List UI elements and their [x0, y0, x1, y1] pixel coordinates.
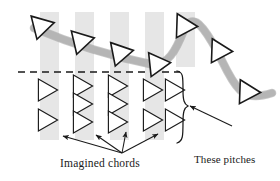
imagined-chords-label: Imagined chords: [60, 157, 140, 170]
not-sounding-label: These pitches not sounding: [194, 128, 258, 181]
not-sounding-brace: [177, 71, 188, 143]
pitches-callout-arrow-group: [190, 106, 232, 126]
figure-root: Imagined chords These pitches not soundi…: [0, 0, 280, 181]
not-sounding-label-line1: These pitches: [194, 153, 258, 165]
silent-pitch-triangle: [165, 109, 184, 131]
brace-group: [177, 71, 188, 143]
silent-pitch-triangle: [165, 79, 184, 101]
sounding-pitch-triangle: [239, 80, 261, 105]
not-sounding-arrow: [190, 106, 232, 126]
